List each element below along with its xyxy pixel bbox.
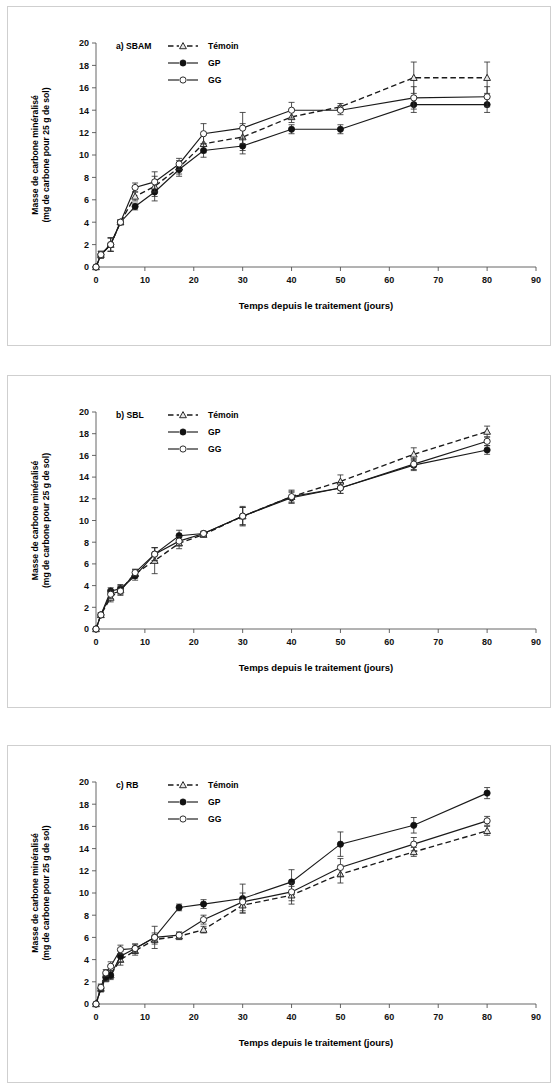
panel-tag-label: b) SBL (116, 410, 144, 420)
y-tick-label: 10 (79, 150, 89, 160)
y-tick-label: 12 (79, 128, 89, 138)
data-point-open-circle (93, 264, 99, 270)
data-point-open-circle (411, 461, 417, 467)
x-tick-label: 40 (287, 275, 297, 285)
y-axis-title-line1: Masse de carbone minéralisé (30, 833, 40, 953)
x-tick-label: 60 (384, 1012, 394, 1022)
data-point-open-triangle (484, 428, 491, 434)
y-tick-label: 0 (84, 262, 89, 272)
legend-item-témoin: Témoin (168, 410, 239, 420)
data-point-open-circle (200, 131, 206, 137)
data-point-open-circle (288, 494, 294, 500)
x-axis-title: Temps depuis le traitement (jours) (239, 1037, 394, 1048)
data-point-open-circle (117, 588, 123, 594)
y-axis-title-line2: (mg de carbone pour 25 g de sol) (41, 825, 51, 960)
y-axis-title-line1: Masse de carbone minéralisé (30, 461, 40, 581)
data-point-open-circle (108, 242, 114, 248)
data-point-filled-circle (176, 904, 182, 910)
x-tick-label: 20 (189, 1012, 199, 1022)
y-tick-label: 10 (79, 516, 89, 526)
y-tick-label: 6 (84, 559, 89, 569)
data-point-open-circle (98, 984, 104, 990)
data-point-open-circle (484, 818, 490, 824)
x-tick-label: 30 (238, 1012, 248, 1022)
data-point-open-circle (411, 841, 417, 847)
y-tick-label: 16 (79, 451, 89, 461)
y-axis-title: Masse de carbone minéralisé(mg de carbon… (30, 825, 51, 960)
data-point-filled-circle (411, 822, 417, 828)
legend-label: Témoin (208, 780, 239, 790)
data-point-open-circle (240, 899, 246, 905)
legend-item-gp: GP (168, 58, 221, 68)
y-tick-label: 12 (79, 494, 89, 504)
data-point-open-triangle (484, 827, 491, 833)
data-point-filled-circle (180, 799, 186, 805)
y-tick-label: 6 (84, 933, 89, 943)
y-tick-label: 2 (84, 240, 89, 250)
legend-item-témoin: Témoin (168, 780, 239, 790)
series-tmoin (93, 426, 491, 632)
y-tick-label: 2 (84, 977, 89, 987)
data-point-open-circle (98, 252, 104, 258)
data-point-open-circle (108, 591, 114, 597)
data-point-open-circle (240, 513, 246, 519)
y-tick-label: 14 (79, 472, 89, 482)
y-tick-label: 20 (79, 38, 89, 48)
x-tick-label: 70 (433, 1012, 443, 1022)
panel-tag-label: a) SBAM (116, 41, 151, 51)
y-axis-title: Masse de carbone minéralisé(mg de carbon… (30, 453, 51, 588)
x-tick-label: 90 (531, 1012, 541, 1022)
y-axis-title: Masse de carbone minéralisé(mg de carbon… (30, 87, 51, 222)
data-point-open-circle (98, 612, 104, 618)
axis-group: 024681012141618200102030405060708090 (79, 407, 541, 647)
data-point-open-triangle (484, 74, 491, 80)
data-point-open-circle (93, 626, 99, 632)
data-point-open-circle (180, 816, 186, 822)
x-tick-label: 90 (531, 637, 541, 647)
chart-panel-a: 024681012141618200102030405060708090Temp… (7, 6, 551, 346)
data-point-open-triangle (180, 412, 187, 418)
data-point-open-circle (176, 932, 182, 938)
legend-label: Témoin (208, 410, 239, 420)
data-point-open-circle (484, 438, 490, 444)
x-tick-label: 10 (140, 275, 150, 285)
y-tick-label: 8 (84, 173, 89, 183)
x-tick-label: 60 (384, 637, 394, 647)
data-point-open-circle (176, 538, 182, 544)
chart-panel-c: 024681012141618200102030405060708090Temp… (7, 745, 551, 1083)
data-point-filled-circle (484, 790, 490, 796)
data-point-open-circle (108, 963, 114, 969)
y-tick-label: 12 (79, 866, 89, 876)
y-tick-label: 18 (79, 800, 89, 810)
data-point-open-circle (152, 934, 158, 940)
x-tick-label: 80 (482, 1012, 492, 1022)
data-point-filled-circle (180, 60, 186, 66)
data-point-open-circle (337, 485, 343, 491)
y-axis-title-line2: (mg de carbone pour 25 g de sol) (41, 453, 51, 588)
x-tick-label: 30 (238, 275, 248, 285)
x-tick-label: 20 (189, 275, 199, 285)
legend-label: GP (208, 427, 221, 437)
y-tick-label: 0 (84, 624, 89, 634)
series-tmoin (93, 62, 491, 270)
chart-a-svg: 024681012141618200102030405060708090Temp… (8, 7, 550, 345)
x-tick-label: 90 (531, 275, 541, 285)
series-gg (93, 437, 490, 632)
data-point-open-circle (93, 1001, 99, 1007)
legend-item-gp: GP (168, 797, 221, 807)
legend-item-témoin: Témoin (168, 41, 239, 51)
data-point-filled-circle (484, 447, 490, 453)
data-point-open-circle (132, 569, 138, 575)
legend-label: Témoin (208, 41, 239, 51)
x-tick-label: 10 (140, 637, 150, 647)
legend-label: GG (208, 75, 222, 85)
series-path (96, 831, 487, 1004)
data-point-open-circle (103, 970, 109, 976)
data-point-open-circle (176, 161, 182, 167)
chart-panel-b: 024681012141618200102030405060708090Temp… (7, 375, 551, 708)
y-axis-title-line1: Masse de carbone minéralisé (30, 95, 40, 215)
data-point-open-circle (337, 107, 343, 113)
legend: TémoinGPGG (168, 410, 239, 454)
data-point-filled-circle (337, 126, 343, 132)
x-tick-label: 80 (482, 275, 492, 285)
